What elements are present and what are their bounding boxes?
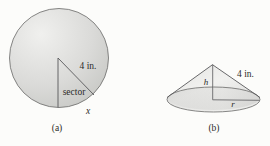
cone-diagram: h 4 in. r (b) [167,65,260,134]
geometry-figure: 4 in. sector x (a) h 4 in. r (b) [0,0,270,146]
figure-canvas: 4 in. sector x (a) h 4 in. r (b) [0,0,270,146]
circle-with-sector-diagram: 4 in. sector x (a) [10,9,109,135]
cone-radius-label: r [231,99,235,109]
caption-b: (b) [208,123,219,134]
cone-radius-line [213,100,260,101]
circle-radius-label: 4 in. [80,61,97,71]
cone-height-label: h [204,77,209,87]
circle-shape [10,9,109,108]
cone-slant-label: 4 in. [237,69,254,79]
arc-length-label: x [85,106,91,116]
caption-a: (a) [52,123,63,134]
sector-label: sector [63,87,87,97]
